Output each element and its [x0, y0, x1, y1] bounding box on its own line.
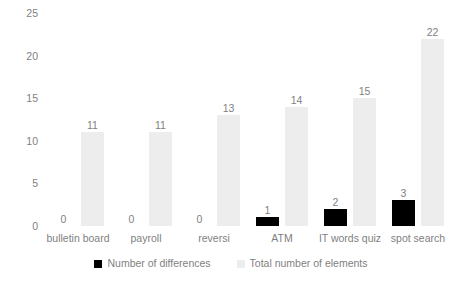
chart-legend: Number of differencesTotal number of ele… — [0, 258, 462, 269]
bar-group: 322 — [392, 13, 444, 226]
bar-total-number-of-elements: 22 — [421, 39, 444, 226]
bar-value-label: 11 — [141, 120, 181, 131]
light-gray-square-marker-icon — [237, 260, 245, 268]
bar-total-number-of-elements: 14 — [285, 107, 308, 226]
bar-group: 114 — [256, 13, 308, 226]
bar-value-label: 2 — [316, 197, 356, 208]
y-axis-tick-label: 15 — [4, 93, 38, 103]
x-axis-label: payroll — [112, 231, 180, 245]
bar-value-label: 0 — [180, 214, 220, 225]
y-axis-tick-label: 10 — [4, 136, 38, 146]
legend-item[interactable]: Total number of elements — [237, 258, 368, 269]
bar-total-number-of-elements: 11 — [81, 132, 104, 226]
bar-number-of-differences: 2 — [324, 209, 347, 226]
y-axis-tick-label: 5 — [4, 178, 38, 188]
bar-group: 011 — [120, 13, 172, 226]
bar-value-label: 15 — [345, 86, 385, 97]
x-axis-label: spot search — [384, 231, 452, 245]
bar-value-label: 22 — [413, 27, 453, 38]
bar-total-number-of-elements: 15 — [353, 98, 376, 226]
bar-total-number-of-elements: 13 — [217, 115, 240, 226]
x-axis-label: ATM — [248, 231, 316, 245]
bar-number-of-differences: 1 — [256, 217, 279, 226]
y-axis-tick-label: 25 — [4, 8, 38, 18]
x-axis-category-labels: bulletin boardpayrollreversiATMIT words … — [44, 231, 452, 249]
bar-value-label: 0 — [44, 214, 84, 225]
bar-value-label: 14 — [277, 95, 317, 106]
bar-value-label: 11 — [73, 120, 113, 131]
legend-item[interactable]: Number of differences — [94, 258, 210, 269]
bar-total-number-of-elements: 11 — [149, 132, 172, 226]
bar-chart: 0510152025 011011013114215322 bulletin b… — [0, 0, 462, 287]
legend-label: Total number of elements — [250, 258, 368, 269]
x-axis-label: bulletin board — [44, 231, 112, 245]
bar-number-of-differences: 3 — [392, 200, 415, 226]
y-axis-tick-label: 0 — [4, 221, 38, 231]
x-axis-label: IT words quiz — [316, 231, 384, 245]
bar-value-label: 0 — [112, 214, 152, 225]
bar-value-label: 1 — [248, 205, 288, 216]
bar-value-label: 3 — [384, 188, 424, 199]
bar-value-label: 13 — [209, 103, 249, 114]
y-axis-tick-label: 20 — [4, 51, 38, 61]
black-square-marker-icon — [94, 260, 102, 268]
plot-area: 011011013114215322 — [44, 13, 452, 226]
y-axis: 0510152025 — [0, 13, 38, 226]
legend-label: Number of differences — [107, 258, 210, 269]
x-axis-label: reversi — [180, 231, 248, 245]
bar-group: 011 — [52, 13, 104, 226]
bar-group: 215 — [324, 13, 376, 226]
bar-group: 013 — [188, 13, 240, 226]
